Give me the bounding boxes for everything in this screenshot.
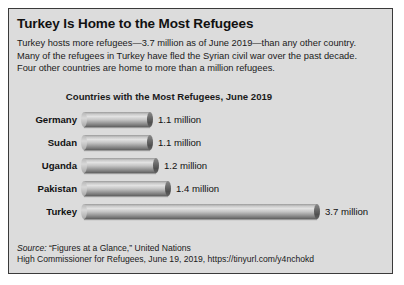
bar-cap-right-icon [314,204,320,219]
bar-body [84,158,156,173]
figure-panel: Turkey Is Home to the Most Refugees Turk… [8,8,393,274]
bar-cap-right-icon [165,181,171,196]
bar-cap-left-icon [81,135,87,150]
source-line-1: Source: “Figures at a Glance,” United Na… [17,243,387,254]
bar-cap-left-icon [81,112,87,127]
figure-headline: Turkey Is Home to the Most Refugees [17,16,382,32]
bar-cap-right-icon [147,112,153,127]
table-row: Pakistan 1.4 million [9,178,393,200]
bar-germany [84,112,150,127]
bar-cap-right-icon [153,158,159,173]
table-row: Sudan 1.1 million [9,132,393,154]
bar-value-label-turkey: 3.7 million [325,201,368,223]
bar-cap-left-icon [81,158,87,173]
bar-value-label-germany: 1.1 million [158,109,201,131]
bar-category-label-pakistan: Pakistan [9,178,77,200]
bar-category-label-germany: Germany [9,109,77,131]
bar-body [84,181,168,196]
bar-turkey [84,204,317,219]
table-row: Uganda 1.2 million [9,155,393,177]
chart-title: Countries with the Most Refugees, June 2… [9,91,329,102]
bar-chart: Countries with the Most Refugees, June 2… [9,91,393,236]
bar-category-label-sudan: Sudan [9,132,77,154]
figure-intro-paragraph: Turkey hosts more refugees—3.7 million a… [17,37,367,75]
bar-sudan [84,135,150,150]
bar-body [84,204,317,219]
bar-body [84,112,150,127]
source-line-2: High Commissioner for Refugees, June 19,… [17,254,387,265]
bar-cap-left-icon [81,181,87,196]
bar-category-label-turkey: Turkey [9,201,77,223]
source-label: Source: [17,243,47,253]
bar-body [84,135,150,150]
source-citation: “Figures at a Glance,” United Nations [47,243,191,253]
table-row: Turkey 3.7 million [9,201,393,223]
bar-cap-right-icon [147,135,153,150]
bar-value-label-uganda: 1.2 million [164,155,207,177]
bar-value-label-sudan: 1.1 million [158,132,201,154]
bar-cap-left-icon [81,204,87,219]
bar-uganda [84,158,156,173]
source-note: Source: “Figures at a Glance,” United Na… [17,243,387,266]
table-row: Germany 1.1 million [9,109,393,131]
bar-value-label-pakistan: 1.4 million [176,178,219,200]
bar-category-label-uganda: Uganda [9,155,77,177]
bar-pakistan [84,181,168,196]
